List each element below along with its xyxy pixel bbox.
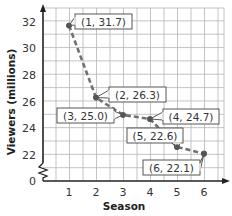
y-tick-label: 28: [22, 69, 36, 82]
x-tick-label: 5: [174, 186, 181, 199]
y-tick-label: 30: [22, 42, 36, 55]
x-axis-arrow-icon: [222, 178, 230, 184]
y-tick-label: 0: [29, 175, 36, 188]
x-axis-title: Season: [103, 200, 146, 212]
y-axis-title: Viewers (millions): [5, 49, 17, 155]
point-label: (6, 22.1): [143, 154, 204, 175]
point-label: (4, 24.7): [150, 109, 219, 124]
point-label-text: (4, 24.7): [169, 111, 214, 123]
point-label: (5, 22.6): [127, 128, 183, 147]
data-point: [201, 151, 207, 157]
line-chart: 0222426283032 123456 (1, 31.7)(2, 26.3)(…: [0, 0, 232, 216]
y-tick-label: 26: [22, 96, 36, 109]
point-label: (2, 26.3): [96, 87, 166, 102]
x-tick-label: 4: [147, 186, 154, 199]
y-tick-label: 32: [22, 16, 36, 29]
data-point: [174, 144, 180, 150]
point-label-text: (3, 25.0): [63, 110, 108, 122]
data-point: [147, 116, 153, 122]
point-label: (3, 25.0): [57, 108, 123, 123]
x-tick-label: 6: [201, 186, 208, 199]
point-label-text: (6, 22.1): [149, 162, 194, 174]
data-point: [120, 112, 126, 118]
data-point: [93, 95, 99, 101]
x-tick-label: 2: [93, 186, 100, 199]
point-label-text: (5, 22.6): [133, 130, 178, 142]
x-tick-label: 1: [66, 186, 73, 199]
x-tick-labels: 123456: [66, 186, 208, 199]
y-tick-labels: 0222426283032: [22, 16, 36, 189]
x-tick-label: 3: [120, 186, 127, 199]
data-point: [66, 23, 72, 29]
point-label-text: (1, 31.7): [81, 16, 126, 28]
y-tick-label: 22: [22, 149, 36, 162]
point-label-text: (2, 26.3): [115, 89, 160, 101]
point-label: (1, 31.7): [69, 14, 132, 29]
y-tick-label: 24: [22, 122, 36, 135]
axis-break-icon: [39, 163, 47, 181]
